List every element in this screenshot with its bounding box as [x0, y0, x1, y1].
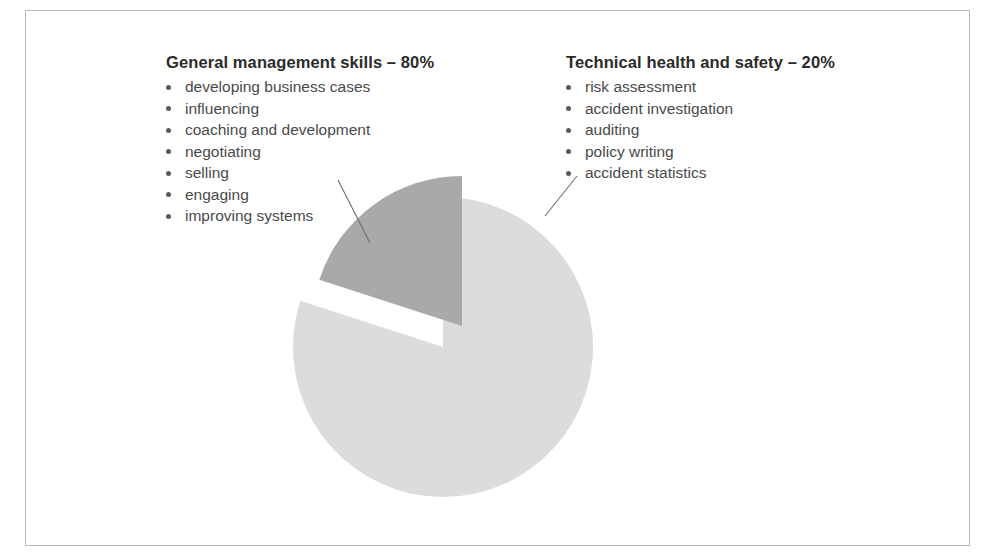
list-item-label: risk assessment	[585, 78, 696, 95]
list-item: improving systems	[166, 205, 496, 227]
list-item-label: engaging	[185, 186, 249, 203]
list-item: risk assessment	[566, 76, 896, 98]
bullet-icon	[566, 171, 571, 176]
list-item: selling	[166, 162, 496, 184]
list-item: negotiating	[166, 141, 496, 163]
callout-list-left: developing business casesinfluencingcoac…	[166, 76, 496, 227]
callout-list-right: risk assessmentaccident investigationaud…	[566, 76, 896, 184]
callout-technical-health-and-safety: Technical health and safety – 20% risk a…	[566, 52, 896, 184]
bullet-icon	[166, 171, 171, 176]
list-item-label: selling	[185, 164, 229, 181]
callout-general-management-skills: General management skills – 80% developi…	[166, 52, 496, 227]
list-item-label: coaching and development	[185, 121, 370, 138]
list-item-label: improving systems	[185, 207, 313, 224]
list-item: developing business cases	[166, 76, 496, 98]
list-item-label: auditing	[585, 121, 639, 138]
list-item-label: influencing	[185, 100, 259, 117]
list-item: policy writing	[566, 141, 896, 163]
callout-heading-left: General management skills – 80%	[166, 52, 496, 73]
figure-canvas: General management skills – 80% developi…	[0, 0, 993, 560]
list-item: engaging	[166, 184, 496, 206]
bullet-icon	[566, 128, 571, 133]
bullet-icon	[566, 106, 571, 111]
bullet-icon	[566, 85, 571, 90]
list-item: accident investigation	[566, 98, 896, 120]
list-item-label: accident statistics	[585, 164, 706, 181]
list-item: accident statistics	[566, 162, 896, 184]
bullet-icon	[166, 214, 171, 219]
bullet-icon	[166, 149, 171, 154]
list-item-label: policy writing	[585, 143, 674, 160]
list-item-label: developing business cases	[185, 78, 370, 95]
list-item-label: accident investigation	[585, 100, 733, 117]
bullet-icon	[166, 85, 171, 90]
list-item: auditing	[566, 119, 896, 141]
bullet-icon	[166, 192, 171, 197]
list-item: influencing	[166, 98, 496, 120]
bullet-icon	[166, 128, 171, 133]
bullet-icon	[566, 149, 571, 154]
list-item: coaching and development	[166, 119, 496, 141]
callout-heading-right: Technical health and safety – 20%	[566, 52, 896, 73]
list-item-label: negotiating	[185, 143, 261, 160]
bullet-icon	[166, 106, 171, 111]
